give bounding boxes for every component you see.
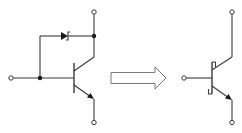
base-junction-dot [38,76,42,80]
right-symbol [182,10,234,125]
base-terminal-icon [182,76,186,80]
schottky-transistor-icon [209,57,233,100]
left-circuit [9,10,96,125]
equivalence-arrow-icon [111,67,166,89]
diagram-canvas: Schottky-clamped transistor equivalent t… [0,0,242,133]
emitter-terminal-icon [92,120,96,124]
collector-terminal-icon [230,10,234,14]
circuit-diagram [0,0,242,133]
collector-terminal-icon [92,10,96,14]
emitter-terminal-icon [230,120,234,124]
base-terminal-icon [9,76,13,80]
npn-transistor-icon [74,57,94,99]
